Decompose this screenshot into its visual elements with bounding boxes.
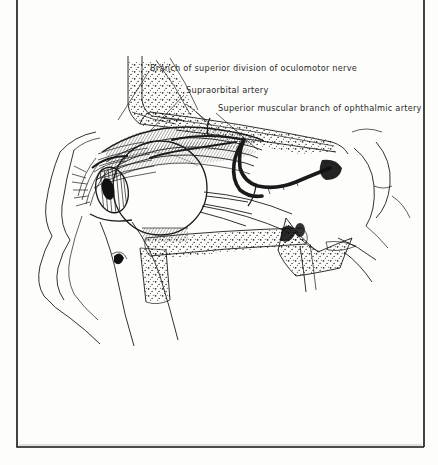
label-supraorbital-artery: Supraorbital artery xyxy=(186,85,269,95)
label-superior-muscular-branch: Superior muscular branch of ophthalmic a… xyxy=(218,103,422,113)
orbit-anatomy-svg: Branch of superior division of oculomoto… xyxy=(0,0,438,465)
illustration-plate: Branch of superior division of oculomoto… xyxy=(0,0,438,465)
label-oculomotor-branch: Branch of superior division of oculomoto… xyxy=(150,63,357,73)
